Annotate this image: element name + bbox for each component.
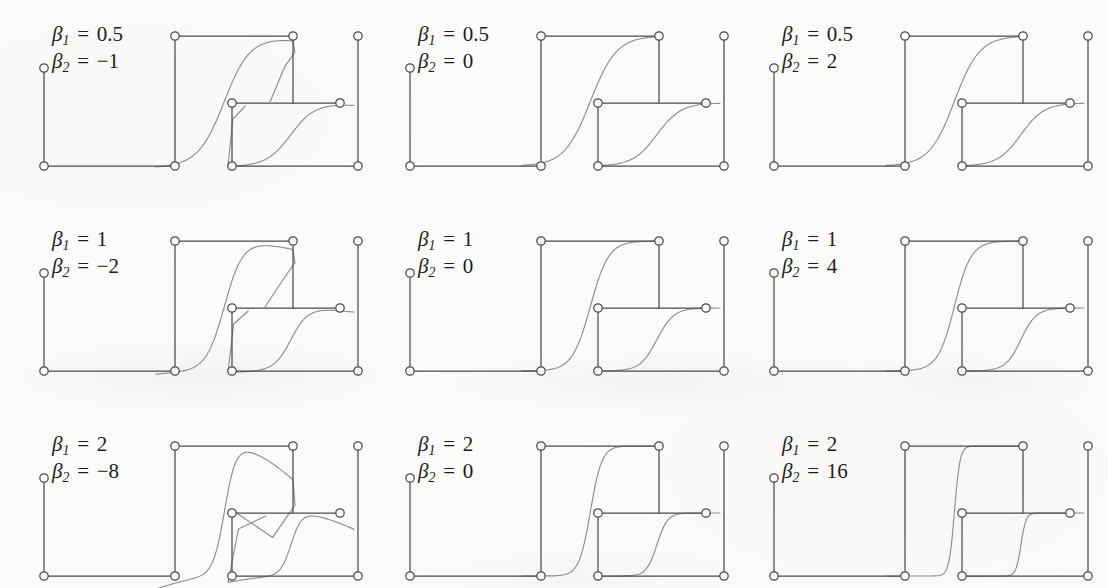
marker-inset-bottom-left [958, 367, 966, 375]
beta-symbol: β [52, 432, 62, 456]
marker-right-stub-top [354, 442, 362, 450]
marker-main-top-left [171, 237, 179, 245]
beta-value: −8 [97, 459, 119, 483]
beta-symbol: β [52, 22, 62, 46]
marker-main-bottom-left [171, 367, 179, 375]
marker-origin [40, 367, 48, 375]
marker-main-top-right [289, 32, 297, 40]
equals-sign: = [435, 254, 462, 278]
beta-symbol: β [418, 459, 428, 483]
main-curve [522, 446, 659, 576]
panel-r1-c1: β1 = 1β2 = 0 [366, 205, 732, 383]
beta-value: 2 [827, 432, 838, 456]
marker-inset-top-right [336, 99, 344, 107]
beta-symbol: β [52, 254, 62, 278]
marker-inset-bottom-right [354, 367, 362, 375]
main-curve [522, 37, 659, 166]
marker-inset-bottom-left [228, 162, 236, 170]
marker-main-bottom-left [537, 572, 545, 580]
marker-right-stub-top [720, 237, 728, 245]
marker-inset-top-left [958, 99, 966, 107]
marker-left-stub-top [770, 64, 778, 72]
marker-inset-top-right [1066, 304, 1074, 312]
marker-inset-top-right [702, 509, 710, 517]
equals-sign: = [435, 49, 462, 73]
marker-right-stub-top [720, 32, 728, 40]
marker-main-bottom-left [901, 162, 909, 170]
beta1-equation: β1 = 2 [52, 432, 119, 459]
beta1-equation: β1 = 1 [782, 227, 837, 254]
marker-inset-top-right [702, 99, 710, 107]
inset-curve [958, 513, 1084, 576]
inset-curve [594, 513, 720, 576]
marker-inset-bottom-right [1084, 162, 1092, 170]
marker-origin [406, 572, 414, 580]
equals-sign: = [69, 22, 96, 46]
beta-value: 1 [827, 227, 838, 251]
panel-r0-c0: β1 = 0.5β2 = −1 [0, 0, 366, 178]
marker-inset-top-left [594, 304, 602, 312]
equals-sign: = [435, 227, 462, 251]
panel-parameter-label: β1 = 0.5β2 = 0 [418, 22, 489, 76]
marker-origin [770, 162, 778, 170]
beta-value: 4 [827, 254, 838, 278]
marker-left-stub-top [406, 64, 414, 72]
marker-main-top-left [537, 237, 545, 245]
inset-curve [594, 308, 720, 371]
equals-sign: = [799, 49, 826, 73]
main-curve [522, 241, 659, 371]
beta-value: 0 [463, 254, 474, 278]
marker-origin [40, 162, 48, 170]
equals-sign: = [69, 459, 96, 483]
beta2-equation: β2 = −2 [52, 254, 119, 281]
panel-parameter-label: β1 = 1β2 = 4 [782, 227, 837, 281]
marker-origin [770, 572, 778, 580]
panel-r2-c2: β1 = 2β2 = 16 [730, 410, 1096, 588]
panel-r2-c1: β1 = 2β2 = 0 [366, 410, 732, 588]
equals-sign: = [799, 22, 826, 46]
beta-symbol: β [782, 432, 792, 456]
marker-inset-bottom-left [594, 162, 602, 170]
marker-inset-bottom-right [354, 162, 362, 170]
beta1-equation: β1 = 1 [52, 227, 119, 254]
marker-inset-top-left [594, 99, 602, 107]
marker-main-bottom-left [537, 367, 545, 375]
marker-left-stub-top [770, 269, 778, 277]
marker-inset-bottom-right [720, 162, 728, 170]
beta-symbol: β [418, 22, 428, 46]
beta-symbol: β [782, 49, 792, 73]
beta-symbol: β [782, 254, 792, 278]
beta-symbol: β [418, 49, 428, 73]
equals-sign: = [435, 22, 462, 46]
marker-main-top-left [537, 32, 545, 40]
marker-inset-top-right [336, 304, 344, 312]
beta-value: 2 [827, 49, 838, 73]
marker-main-top-right [655, 237, 663, 245]
panel-r1-c0: β1 = 1β2 = −2 [0, 205, 366, 383]
marker-inset-top-left [958, 304, 966, 312]
main-curve [156, 41, 295, 167]
marker-right-stub-top [354, 32, 362, 40]
marker-main-top-right [655, 32, 663, 40]
beta1-equation: β1 = 0.5 [52, 22, 123, 49]
marker-inset-bottom-left [958, 572, 966, 580]
marker-main-bottom-left [901, 572, 909, 580]
marker-origin [40, 572, 48, 580]
equals-sign: = [799, 227, 826, 251]
marker-right-stub-top [1084, 32, 1092, 40]
marker-origin [406, 367, 414, 375]
figure-canvas: β1 = 0.5β2 = −1β1 = 0.5β2 = 0β1 = 0.5β2 … [0, 0, 1108, 588]
beta-value: 0 [463, 49, 474, 73]
marker-left-stub-top [40, 474, 48, 482]
marker-main-top-left [171, 32, 179, 40]
marker-inset-bottom-right [720, 367, 728, 375]
marker-left-stub-top [406, 474, 414, 482]
equals-sign: = [799, 459, 826, 483]
beta-value: 16 [827, 459, 848, 483]
inset-curve [594, 103, 720, 165]
beta2-equation: β2 = 0 [418, 254, 473, 281]
marker-inset-top-right [1066, 509, 1074, 517]
beta-symbol: β [782, 227, 792, 251]
beta1-equation: β1 = 2 [418, 432, 473, 459]
inset-curve [228, 310, 354, 372]
